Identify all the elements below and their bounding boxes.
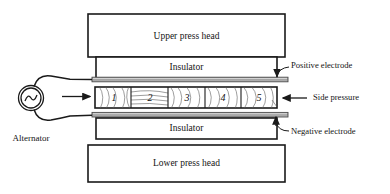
lower-press-head-label: Lower press head	[153, 158, 220, 168]
upper-press-head: Upper press head	[88, 14, 285, 57]
press-schematic-diagram: Upper press head Insulator	[0, 0, 390, 194]
lower-insulator: Insulator	[96, 118, 277, 139]
negative-electrode-label: Negative electrode	[291, 126, 356, 136]
upper-insulator-label: Insulator	[170, 62, 205, 72]
side-pressure-callout: Side pressure	[283, 92, 359, 102]
side-pressure-label: Side pressure	[313, 92, 359, 102]
specimen-cell-label-5: 5	[257, 92, 262, 103]
specimen-cell-label-2: 2	[148, 92, 153, 103]
positive-electrode-label: Positive electrode	[291, 60, 353, 70]
specimen-cell-label-1: 1	[112, 92, 117, 103]
specimen-stack: 1 2 3 4 5	[95, 86, 277, 109]
specimen-cell-label-4: 4	[221, 92, 226, 103]
positive-electrode-bar	[92, 77, 288, 82]
positive-electrode-callout: Positive electrode	[277, 60, 353, 77]
upper-insulator: Insulator	[96, 57, 277, 78]
alternator: Alternator	[13, 86, 50, 144]
upper-press-head-label: Upper press head	[154, 31, 220, 41]
lower-press-head: Lower press head	[88, 145, 285, 182]
alternator-label: Alternator	[13, 133, 50, 143]
specimen-cell-label-3: 3	[184, 92, 190, 103]
negative-electrode-bar	[92, 112, 288, 117]
lower-insulator-label: Insulator	[170, 123, 205, 133]
diagram-canvas: Upper press head Insulator	[0, 0, 390, 194]
negative-electrode-callout: Negative electrode	[276, 117, 356, 136]
